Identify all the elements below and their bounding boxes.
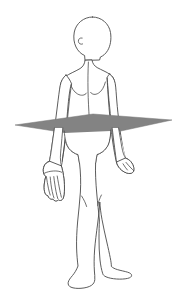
hips-front-segment — [64, 131, 110, 163]
anatomy-figure-canvas: .outline { fill: #ffffff; stroke: #4a4a4… — [0, 0, 185, 298]
left-hand-outline — [43, 161, 64, 201]
anatomy-svg: .outline { fill: #ffffff; stroke: #4a4a4… — [0, 0, 185, 298]
